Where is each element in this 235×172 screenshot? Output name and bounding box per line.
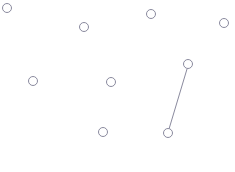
- graph-node[interactable]: [107, 78, 116, 87]
- graph-node[interactable]: [164, 129, 173, 138]
- graph-node[interactable]: [29, 77, 38, 86]
- graph-node[interactable]: [3, 4, 12, 13]
- graph-edge[interactable]: [169, 69, 187, 129]
- graph-node[interactable]: [80, 23, 89, 32]
- graph-node[interactable]: [184, 60, 193, 69]
- graph-node[interactable]: [99, 128, 108, 137]
- node-layer: [3, 4, 229, 138]
- graph-node[interactable]: [220, 19, 229, 28]
- edge-layer: [169, 69, 187, 129]
- graph-canvas: [0, 0, 235, 172]
- graph-svg: [0, 0, 235, 172]
- graph-node[interactable]: [147, 10, 156, 19]
